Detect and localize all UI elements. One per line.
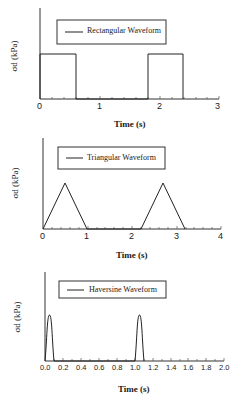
x-tick-3: 3 bbox=[215, 101, 220, 111]
x-tick-6: 1.2 bbox=[148, 363, 158, 372]
y-axis-label: σd (kPa) bbox=[10, 158, 20, 208]
x-tick-10: 2.0 bbox=[219, 363, 229, 372]
triangular-series-line bbox=[43, 183, 185, 229]
x-tick-5: 1.0 bbox=[130, 363, 140, 372]
rectangular-waveform-chart: Rectangular Waveform 0 1 2 3 Time (s) σd… bbox=[0, 0, 240, 132]
x-tick-8: 1.6 bbox=[183, 363, 193, 372]
rectangular-chart-svg bbox=[0, 0, 240, 132]
x-tick-0: 0 bbox=[40, 231, 45, 241]
x-axis-label: Time (s) bbox=[114, 119, 146, 129]
x-tick-2: 0.4 bbox=[76, 363, 86, 372]
x-tick-2: 2 bbox=[157, 101, 162, 111]
x-tick-2: 2 bbox=[129, 231, 134, 241]
y-axis-label: σd (kPa) bbox=[12, 292, 22, 342]
x-tick-1: 0.2 bbox=[58, 363, 68, 372]
rectangular-series-line bbox=[40, 54, 183, 99]
x-axis-label: Time (s) bbox=[116, 250, 148, 260]
legend-label: Haversine Waveform bbox=[89, 285, 157, 294]
triangular-waveform-chart: Triangular Waveform 0 1 2 3 4 Time (s) σ… bbox=[0, 132, 240, 266]
x-tick-4: 0.8 bbox=[112, 363, 122, 372]
x-tick-4: 4 bbox=[218, 231, 223, 241]
legend-label: Triangular Waveform bbox=[87, 153, 156, 162]
y-axis-label: σd (kPa) bbox=[9, 31, 19, 81]
haversine-series-line bbox=[45, 315, 144, 361]
x-tick-9: 1.8 bbox=[201, 363, 211, 372]
legend-label: Rectangular Waveform bbox=[87, 26, 161, 35]
x-tick-7: 1.4 bbox=[166, 363, 176, 372]
x-axis-label: Time (s) bbox=[118, 384, 150, 394]
x-tick-1: 1 bbox=[84, 231, 89, 241]
x-tick-0: 0 bbox=[37, 101, 42, 111]
x-tick-3: 0.6 bbox=[94, 363, 104, 372]
x-tick-0: 0.0 bbox=[40, 363, 50, 372]
haversine-waveform-chart: Haversine Waveform 0.0 0.2 0.4 0.6 0.8 1… bbox=[0, 266, 240, 405]
x-tick-1: 1 bbox=[97, 101, 102, 111]
x-tick-3: 3 bbox=[174, 231, 179, 241]
